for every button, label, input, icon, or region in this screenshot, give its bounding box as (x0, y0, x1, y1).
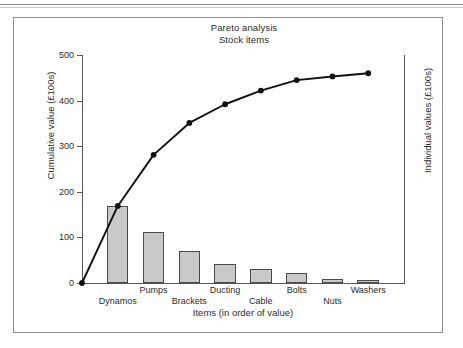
data-point-marker (294, 77, 300, 83)
data-point-marker (115, 203, 121, 209)
pareto-chart-figure: Pareto analysis Stock items 010020030040… (0, 0, 463, 348)
x-axis-category-label: Washers (328, 285, 408, 296)
x-axis-title: Items (in order of value) (82, 307, 404, 318)
y-axis-tick-label: 100 (44, 232, 74, 242)
x-axis-category-label: Ducting (185, 285, 265, 296)
y-axis-right-title: Individual values (£100s) (422, 31, 433, 211)
x-axis-category-label: Pumps (114, 285, 194, 296)
x-axis-category-label: Bolts (257, 285, 337, 296)
x-axis-category-label: Brackets (149, 296, 229, 307)
y-axis-left-title: Cumulative value (£100s) (45, 36, 56, 216)
cumulative-line-series (82, 55, 404, 283)
x-axis-category-label: Cable (221, 296, 301, 307)
y-axis-right-line (404, 55, 405, 284)
chart-title: Pareto analysis (83, 22, 405, 34)
data-point-marker (258, 88, 264, 94)
y-axis-tick-label: 0 (44, 278, 74, 288)
x-axis-category-label: Nuts (292, 296, 372, 307)
data-point-marker (151, 152, 157, 158)
x-axis-category-label: Dynamos (78, 296, 158, 307)
data-point-marker (186, 120, 192, 126)
data-point-marker (222, 101, 228, 107)
chart-subtitle: Stock items (83, 34, 405, 46)
data-point-marker (365, 70, 371, 76)
data-point-marker (330, 74, 336, 80)
page-top-rule (0, 4, 463, 5)
page-top-rule-secondary (0, 7, 463, 8)
